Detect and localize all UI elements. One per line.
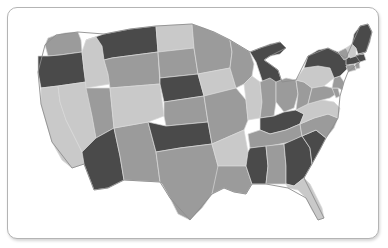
state-TX[interactable]: [156, 144, 220, 220]
map-viewer: [0, 0, 388, 248]
state-WA[interactable]: [45, 32, 82, 56]
us-map[interactable]: [8, 8, 379, 239]
state-ND[interactable]: [156, 24, 194, 52]
state-LA[interactable]: [212, 166, 252, 194]
state-IN[interactable]: [260, 78, 276, 118]
state-SD[interactable]: [158, 48, 198, 78]
map-card: [7, 7, 379, 239]
state-AL[interactable]: [266, 144, 286, 184]
state-OR[interactable]: [38, 52, 86, 88]
state-OH[interactable]: [276, 78, 298, 112]
state-CO[interactable]: [110, 84, 164, 128]
